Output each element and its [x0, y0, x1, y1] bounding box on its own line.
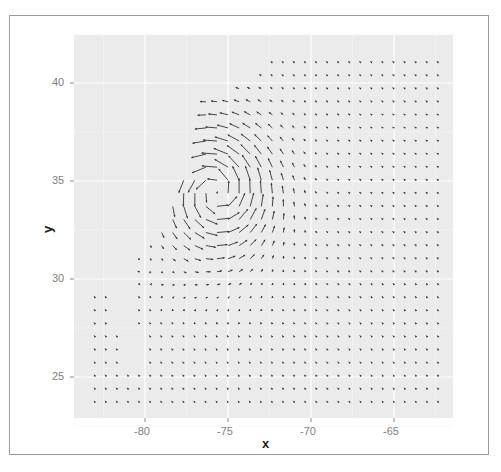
- vector-arrow: [227, 145, 239, 154]
- x-tick-minus80: -80: [134, 425, 150, 437]
- x-axis-title: x: [262, 436, 269, 451]
- vector-arrow: [179, 180, 184, 193]
- vector-arrow: [192, 141, 205, 143]
- y-tick-35: 35: [52, 174, 64, 186]
- vector-arrow: [245, 166, 250, 180]
- vector-arrow: [188, 180, 195, 192]
- vector-arrow: [233, 166, 240, 180]
- vector-arrow: [250, 179, 251, 194]
- vector-arrow: [202, 166, 217, 167]
- vector-arrow: [202, 153, 217, 154]
- vector-arrow: [219, 169, 228, 180]
- vector-arrow: [258, 168, 262, 181]
- y-tick-30: 30: [52, 272, 64, 284]
- y-axis-title: y: [40, 226, 55, 233]
- vector-field-plot: [0, 0, 501, 472]
- vector-arrow: [228, 156, 239, 167]
- vector-arrow: [214, 159, 228, 167]
- x-tick-minus70: -70: [300, 425, 316, 437]
- vector-arrow: [239, 209, 248, 219]
- vector-arrow: [191, 154, 206, 158]
- y-tick-40: 40: [52, 76, 64, 88]
- vector-arrow: [241, 144, 250, 154]
- y-tick-25: 25: [52, 370, 64, 382]
- vector-arrow: [260, 180, 261, 193]
- vector-arrow: [228, 135, 239, 141]
- vector-arrow: [242, 155, 250, 167]
- vector-arrow: [250, 193, 254, 206]
- vector-arrow: [228, 212, 239, 219]
- x-tick-minus75: -75: [217, 425, 233, 437]
- vector-arrow: [228, 196, 237, 206]
- x-tick-minus65: -65: [383, 425, 399, 437]
- vector-arrow: [196, 180, 206, 189]
- vector-arrow: [214, 148, 228, 154]
- vector-arrow: [215, 137, 228, 141]
- vector-arrow: [239, 193, 245, 206]
- vector-arrow: [192, 167, 206, 173]
